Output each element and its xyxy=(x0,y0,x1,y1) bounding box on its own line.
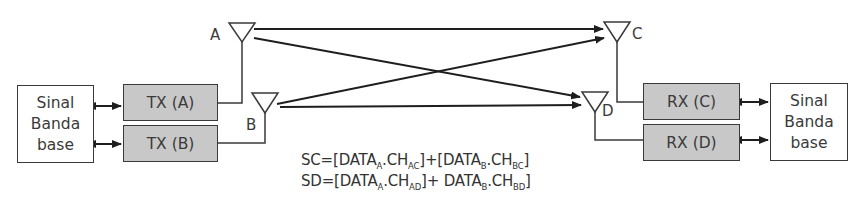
antenna-label-d: D xyxy=(602,102,614,120)
tx-a-block: TX (A) xyxy=(123,84,218,121)
link-b-to-d xyxy=(280,105,581,107)
antenna-label-c: C xyxy=(632,25,642,43)
left-baseband-line-2: Banda xyxy=(31,114,80,135)
tx-b-block: TX (B) xyxy=(123,125,218,162)
right-baseband-line-1: Sinal xyxy=(790,91,828,112)
right-baseband-block: Sinal Banda base xyxy=(770,83,848,161)
right-baseband-line-3: base xyxy=(791,133,828,154)
rx-d-block: RX (D) xyxy=(643,124,740,161)
antenna-label-a: A xyxy=(210,26,220,44)
equation-sc: SC=[DATAA.CHAC]+[DATAB.CHBC] xyxy=(301,151,529,171)
antenna-a-icon xyxy=(217,23,255,103)
rx-c-label: RX (C) xyxy=(667,93,716,111)
link-a-to-d xyxy=(254,38,580,97)
tx-b-label: TX (B) xyxy=(147,135,195,153)
left-baseband-line-3: base xyxy=(37,135,74,156)
link-b-to-c xyxy=(277,38,604,104)
antenna-label-b: B xyxy=(246,116,256,134)
tx-a-label: TX (A) xyxy=(147,94,195,112)
right-baseband-line-2: Banda xyxy=(784,112,833,133)
equation-sd: SD=[DATAA.CHAD]+ DATAB.CHBD] xyxy=(301,172,531,192)
rx-c-block: RX (C) xyxy=(643,83,740,120)
left-baseband-block: Sinal Banda base xyxy=(17,85,94,163)
left-baseband-line-1: Sinal xyxy=(37,93,75,114)
rx-d-label: RX (D) xyxy=(666,134,716,152)
